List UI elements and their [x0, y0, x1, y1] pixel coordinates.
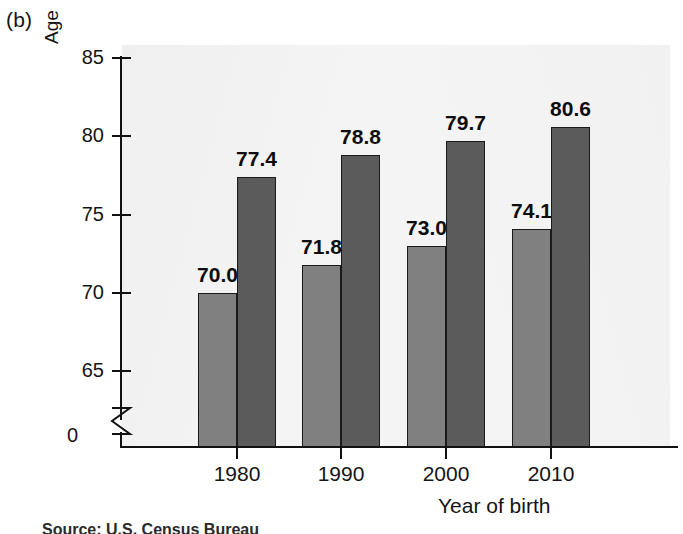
bar-2000-series-1 [407, 246, 446, 447]
source-note: Source: U.S. Census Bureau [42, 521, 259, 534]
chart-figure: (b) Age 70.077.471.878.873.079.774.180.6… [0, 0, 683, 534]
y-tick-85: 85 [112, 57, 131, 59]
bar-value-label: 80.6 [550, 97, 591, 121]
x-axis-title: Year of birth [438, 494, 550, 518]
y-axis-zero-label: 0 [67, 424, 78, 447]
x-tick-2000 [445, 446, 447, 459]
y-axis-title: Age [41, 10, 63, 44]
x-tick-1980 [236, 446, 238, 459]
bar-1990-series-1 [302, 265, 341, 447]
bar-value-label: 78.8 [340, 125, 381, 149]
x-tick-label: 1990 [318, 462, 365, 486]
bar-2010-series-1 [512, 229, 551, 447]
y-tick-80: 80 [112, 135, 131, 137]
y-tick-75: 75 [112, 214, 131, 216]
bar-value-label: 77.4 [236, 147, 277, 171]
y-tick-label: 85 [82, 46, 104, 69]
y-tick-label: 70 [82, 281, 104, 304]
bar-2010-series-2 [551, 127, 590, 447]
bar-1980-series-2 [237, 177, 276, 447]
bar-value-label: 73.0 [406, 216, 447, 240]
x-tick-label: 2000 [423, 462, 470, 486]
panel-label: (b) [6, 8, 32, 32]
x-tick-label: 2010 [528, 462, 575, 486]
x-axis-line [120, 446, 678, 448]
y-axis-line [120, 56, 122, 420]
y-axis-break-icon [108, 404, 138, 438]
bar-value-label: 71.8 [301, 235, 342, 259]
x-tick-2010 [550, 446, 552, 459]
x-tick-label: 1980 [214, 462, 261, 486]
y-tick-70: 70 [112, 292, 131, 294]
bar-1980-series-1 [198, 293, 237, 447]
y-tick-label: 65 [82, 359, 104, 382]
y-tick-65: 65 [112, 370, 131, 372]
bar-value-label: 74.1 [511, 199, 552, 223]
bar-value-label: 70.0 [197, 263, 238, 287]
x-tick-1990 [340, 446, 342, 459]
y-tick-label: 80 [82, 124, 104, 147]
bar-value-label: 79.7 [445, 111, 486, 135]
y-tick-label: 75 [82, 203, 104, 226]
bar-1990-series-2 [341, 155, 380, 447]
bar-2000-series-2 [446, 141, 485, 447]
